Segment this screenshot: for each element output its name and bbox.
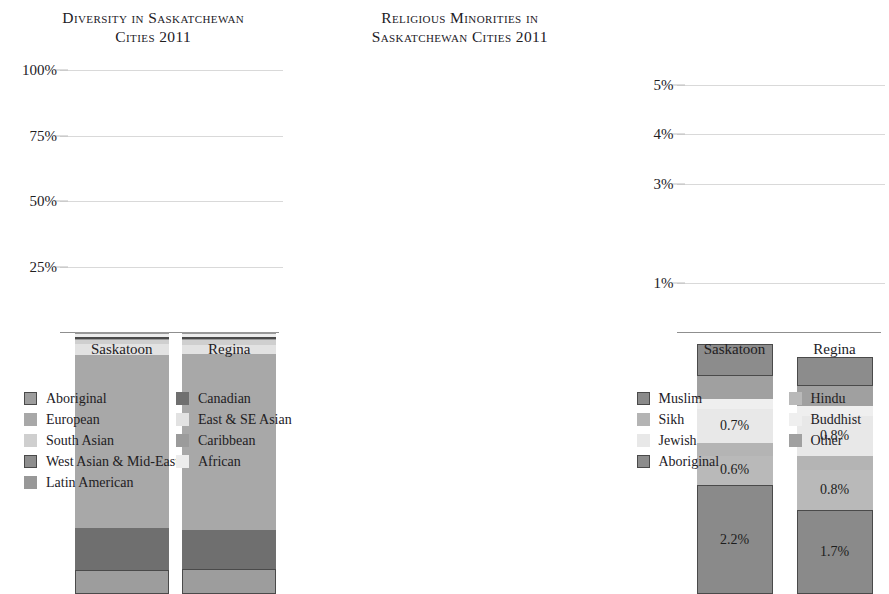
- bar-segment-value: 2.2%: [698, 532, 772, 548]
- diversity-title-line1: Diversity in Saskatchewan: [62, 9, 244, 26]
- legend-swatch-icon: [176, 413, 189, 426]
- diversity-legend: AboriginalEuropeanSouth AsianWest Asian …: [24, 388, 296, 493]
- legend-item[interactable]: Latin American: [24, 472, 176, 493]
- legend-item-label: Hindu: [811, 392, 846, 406]
- y-axis-label: 25%: [30, 258, 69, 275]
- legend-item-label: Jewish: [659, 434, 697, 448]
- legend-swatch-icon: [637, 392, 650, 405]
- legend-swatch-icon: [24, 434, 37, 447]
- legend-item-label: Other: [811, 434, 843, 448]
- legend-swatch-icon: [24, 476, 37, 489]
- bar-segment[interactable]: 2.2%: [697, 485, 773, 594]
- x-axis-label: Regina: [813, 341, 856, 358]
- y-axis-label: 1%: [654, 274, 685, 291]
- legend-item[interactable]: Hindu: [789, 388, 889, 409]
- y-axis-label: 50%: [30, 193, 69, 210]
- legend-swatch-icon: [789, 392, 802, 405]
- legend-swatch-icon: [789, 434, 802, 447]
- bar-segment[interactable]: [75, 528, 169, 570]
- axis-baseline: [677, 332, 881, 333]
- x-axis-label: Saskatoon: [91, 341, 153, 358]
- bar-segment[interactable]: [75, 334, 169, 336]
- y-axis-label: 100%: [22, 62, 68, 79]
- legend-item[interactable]: Caribbean: [176, 430, 296, 451]
- x-axis-label: Saskatoon: [704, 341, 766, 358]
- bar-group: Regina: [182, 70, 276, 332]
- legend-item-label: Muslim: [659, 392, 703, 406]
- bar-segment[interactable]: [182, 337, 276, 339]
- legend-item[interactable]: Muslim: [637, 388, 789, 409]
- bar-segment[interactable]: [182, 332, 276, 334]
- legend-swatch-icon: [176, 455, 189, 468]
- bar-group: 2.2%0.6%0.7%Saskatoon: [697, 70, 773, 332]
- bar-segment[interactable]: [182, 530, 276, 569]
- legend-item[interactable]: African: [176, 451, 296, 472]
- legend-item-label: West Asian & Mid-East: [46, 455, 179, 469]
- legend-item-label: Latin American: [46, 476, 133, 490]
- legend-item[interactable]: Canadian: [176, 388, 296, 409]
- bar-segment[interactable]: [75, 332, 169, 334]
- y-axis-label: 3%: [654, 175, 685, 192]
- legend-item[interactable]: Aboriginal: [637, 451, 789, 472]
- diversity-legend-column-2: CanadianEast & SE AsianCaribbeanAfrican: [176, 388, 296, 493]
- religion-title-line1: Religious Minorities in: [381, 9, 538, 26]
- legend-swatch-icon: [789, 413, 802, 426]
- bar-segment-value: 1.7%: [798, 544, 872, 560]
- diversity-legend-column-1: AboriginalEuropeanSouth AsianWest Asian …: [24, 388, 176, 493]
- bar-segment[interactable]: [182, 334, 276, 337]
- legend-item[interactable]: Other: [789, 430, 889, 451]
- bar-group: Saskatoon: [75, 70, 169, 332]
- bar-segment-value: 0.8%: [797, 482, 873, 498]
- religion-chart-title: Religious Minorities in Saskatchewan Cit…: [307, 8, 614, 46]
- bar-segment[interactable]: [182, 569, 276, 594]
- religion-legend: MuslimSikhJewishAboriginal HinduBuddhist…: [637, 388, 889, 472]
- legend-swatch-icon: [637, 413, 650, 426]
- legend-item-label: South Asian: [46, 434, 114, 448]
- legend-item-label: European: [46, 413, 100, 427]
- legend-swatch-icon: [637, 434, 650, 447]
- y-axis-label: 5%: [654, 76, 685, 93]
- diversity-title-line2: Cities 2011: [0, 27, 307, 46]
- legend-item[interactable]: Buddhist: [789, 409, 889, 430]
- legend-item-label: Canadian: [198, 392, 251, 406]
- legend-item[interactable]: South Asian: [24, 430, 176, 451]
- legend-swatch-icon: [24, 413, 37, 426]
- legend-item[interactable]: West Asian & Mid-East: [24, 451, 176, 472]
- religion-legend-column-2: HinduBuddhistOther: [789, 388, 889, 472]
- diversity-chart-title: Diversity in Saskatchewan Cities 2011: [0, 8, 307, 46]
- bar-group: 1.7%0.8%0.8%Regina: [797, 70, 873, 332]
- legend-swatch-icon: [24, 455, 37, 468]
- religion-legend-column-1: MuslimSikhJewishAboriginal: [637, 388, 789, 472]
- legend-item[interactable]: Aboriginal: [24, 388, 176, 409]
- bar-segment[interactable]: [75, 337, 169, 339]
- bar-segment[interactable]: [75, 570, 169, 594]
- diversity-chart-panel: Diversity in Saskatchewan Cities 2011 25…: [0, 0, 307, 472]
- legend-swatch-icon: [24, 392, 37, 405]
- legend-swatch-icon: [176, 392, 189, 405]
- legend-item[interactable]: East & SE Asian: [176, 409, 296, 430]
- legend-item[interactable]: Sikh: [637, 409, 789, 430]
- legend-item-label: Aboriginal: [659, 455, 720, 469]
- legend-item[interactable]: Jewish: [637, 430, 789, 451]
- religion-chart-panel: Religious Minorities in Saskatchewan Cit…: [307, 0, 614, 472]
- legend-swatch-icon: [637, 455, 650, 468]
- bar-segment[interactable]: 1.7%: [797, 510, 873, 594]
- legend-item-label: African: [198, 455, 241, 469]
- legend-swatch-icon: [176, 434, 189, 447]
- legend-item-label: East & SE Asian: [198, 413, 292, 427]
- x-axis-label: Regina: [208, 341, 251, 358]
- y-axis-label: 4%: [654, 126, 685, 143]
- diversity-plot-area: 25%50%75%100%SaskatoonRegina: [68, 70, 283, 332]
- legend-item[interactable]: European: [24, 409, 176, 430]
- bar-segment[interactable]: 0.8%: [797, 470, 873, 510]
- religion-title-line2: Saskatchewan Cities 2011: [307, 27, 614, 46]
- legend-item-label: Aboriginal: [46, 392, 107, 406]
- legend-item-label: Caribbean: [198, 434, 256, 448]
- religion-plot-area: 1%3%4%5%2.2%0.6%0.7%Saskatoon1.7%0.8%0.8…: [685, 70, 885, 332]
- legend-item-label: Sikh: [659, 413, 685, 427]
- y-axis-label: 75%: [30, 127, 69, 144]
- bar-segment[interactable]: [797, 357, 873, 387]
- legend-item-label: Buddhist: [811, 413, 862, 427]
